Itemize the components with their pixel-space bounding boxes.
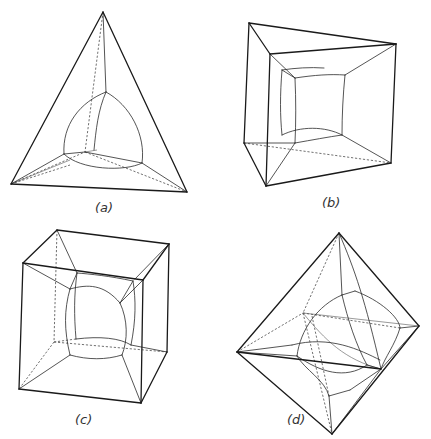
outer-edge [249, 23, 270, 54]
faint-edge [303, 313, 419, 326]
inner-edge [381, 328, 400, 369]
panel-a-tetrahedron [11, 12, 187, 192]
inner-edge [339, 233, 342, 295]
outer-edge [244, 23, 249, 143]
inner-edge [76, 338, 131, 345]
outer-edge [143, 244, 169, 280]
inner-edge [266, 143, 295, 186]
outer-edge [141, 280, 143, 403]
outer-edge [339, 233, 419, 326]
inner-edge [270, 54, 295, 78]
inner-edge [19, 355, 70, 389]
hidden-edge [303, 233, 339, 313]
outer-edge [266, 54, 270, 186]
outer-edge [237, 233, 339, 352]
hidden-edge [312, 316, 329, 396]
inner-edge [339, 233, 381, 369]
inner-edge [282, 128, 342, 135]
inner-edge [103, 12, 106, 92]
outer-edge [249, 23, 396, 44]
inner-edge [131, 345, 167, 352]
inner-edge [57, 230, 77, 273]
inner-edge [75, 273, 77, 339]
inner-edge [295, 78, 296, 143]
inner-edge [70, 355, 122, 359]
label-c: (c) [75, 412, 92, 427]
label-a: (a) [95, 200, 113, 215]
inner-edge [295, 75, 345, 78]
inner-edge [329, 396, 332, 434]
inner-edge [70, 286, 120, 303]
inner-edge [66, 289, 71, 355]
inner-edge [237, 345, 292, 352]
inner-edge [342, 135, 391, 163]
inner-edge [281, 70, 283, 135]
inner-edge [131, 281, 135, 345]
outer-edge [244, 143, 266, 186]
inner-edge [400, 326, 419, 328]
outer-edge [19, 389, 141, 403]
inner-edge [295, 135, 342, 143]
panel-d-octahedron [237, 233, 419, 434]
hidden-edge [237, 313, 303, 352]
outer-edge [23, 230, 57, 263]
hidden-edge [54, 230, 57, 342]
inner-edge [297, 356, 367, 373]
inner-edge [64, 92, 106, 154]
outer-edge [167, 244, 169, 352]
outer-edge [237, 352, 332, 434]
hidden-edge [85, 12, 103, 152]
inner-edge [120, 303, 126, 355]
inner-edge [292, 342, 380, 360]
inner-edge [94, 92, 106, 150]
outer-edge [23, 263, 143, 280]
label-b: (b) [322, 195, 340, 210]
inner-edge [329, 390, 350, 396]
polyhedra-figure: (a) (b) (c) (d) [0, 0, 431, 439]
outer-edge [391, 44, 396, 163]
faint-edge [85, 150, 97, 152]
inner-edge [122, 355, 141, 403]
outer-edge [332, 326, 419, 434]
panel-b-prism [244, 23, 396, 186]
inner-edge [282, 68, 324, 70]
outer-edge [270, 44, 396, 54]
hidden-edge [244, 143, 391, 163]
label-d: (d) [287, 412, 305, 427]
outer-edge [11, 184, 187, 192]
hidden-edge [54, 342, 167, 352]
outer-edge [19, 263, 23, 389]
inner-edge [106, 92, 143, 163]
inner-edge [282, 70, 295, 78]
hidden-edge [303, 313, 400, 328]
hidden-edge [19, 342, 54, 389]
outer-edge [237, 352, 381, 369]
inner-edge [342, 295, 367, 365]
inner-edge [342, 291, 355, 295]
inner-edge [342, 75, 345, 135]
outer-edge [141, 352, 167, 403]
hidden-edge [303, 313, 332, 434]
outer-edge [266, 163, 391, 186]
panel-c-cube [19, 230, 169, 403]
inner-edge [85, 152, 142, 163]
inner-edge [345, 44, 396, 75]
inner-edge [135, 244, 169, 279]
outer-edge [57, 230, 169, 244]
hidden-edge [54, 339, 76, 342]
faint-edge [11, 160, 70, 184]
inner-edge [64, 154, 142, 168]
